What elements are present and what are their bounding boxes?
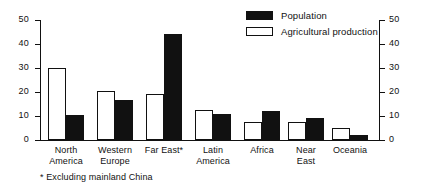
- bar-population: [213, 114, 231, 140]
- bar-population: [115, 100, 133, 140]
- bar-group: [97, 20, 133, 140]
- plot-area: 50 40 30 20 10 0 50 40 30: [40, 20, 380, 140]
- bar-population: [164, 34, 182, 140]
- bar-population: [350, 135, 368, 140]
- y-tick-left-40: [35, 44, 40, 45]
- y-tick-right-50: [380, 20, 385, 21]
- y-tick-right-0: [380, 140, 385, 141]
- y-tick-left-0: [35, 140, 40, 141]
- bar-group: [288, 20, 324, 140]
- bar-group: [48, 20, 84, 140]
- bar-group: [244, 20, 280, 140]
- bar-agricultural-production: [332, 128, 350, 140]
- y-axis-left: [40, 20, 41, 141]
- chart-footnote: * Excluding mainland China: [40, 172, 153, 182]
- y-tick-right-20: [380, 92, 385, 93]
- bar-population: [66, 115, 84, 140]
- y-tick-label-right-40: 40: [389, 39, 415, 48]
- bar-group: [195, 20, 231, 140]
- y-tick-left-30: [35, 68, 40, 69]
- bar-population: [306, 118, 324, 140]
- y-axis-right: [379, 20, 380, 141]
- y-tick-label-left-10: 10: [3, 111, 29, 120]
- y-tick-right-30: [380, 68, 385, 69]
- y-tick-right-40: [380, 44, 385, 45]
- y-tick-label-left-20: 20: [3, 87, 29, 96]
- bar-agricultural-production: [195, 110, 213, 140]
- bar-chart: Population Agricultural production 50 40…: [0, 0, 421, 191]
- y-tick-label-left-30: 30: [3, 63, 29, 72]
- bar-agricultural-production: [288, 122, 306, 140]
- y-tick-label-right-20: 20: [389, 87, 415, 96]
- y-tick-label-right-0: 0: [389, 135, 415, 144]
- bar-group: [332, 20, 368, 140]
- y-tick-left-10: [35, 116, 40, 117]
- y-tick-label-left-40: 40: [3, 39, 29, 48]
- x-axis: [40, 140, 380, 141]
- y-tick-label-right-30: 30: [389, 63, 415, 72]
- bar-agricultural-production: [244, 122, 262, 140]
- bar-group: [146, 20, 182, 140]
- y-tick-right-10: [380, 116, 385, 117]
- y-tick-left-50: [35, 20, 40, 21]
- y-tick-label-right-50: 50: [389, 15, 415, 24]
- y-tick-label-left-50: 50: [3, 15, 29, 24]
- bar-population: [262, 111, 280, 140]
- bar-agricultural-production: [48, 68, 66, 140]
- y-tick-label-right-10: 10: [389, 111, 415, 120]
- bar-agricultural-production: [146, 94, 164, 140]
- y-tick-label-left-0: 0: [3, 135, 29, 144]
- bar-agricultural-production: [97, 91, 115, 140]
- category-label: Oceania: [318, 145, 382, 156]
- y-tick-left-20: [35, 92, 40, 93]
- legend-swatch-population: [246, 11, 273, 20]
